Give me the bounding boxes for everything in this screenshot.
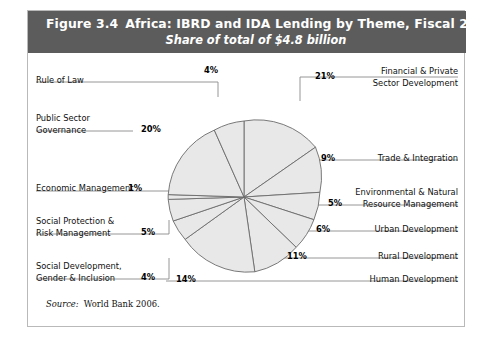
figure-number: Figure 3.4	[46, 16, 118, 31]
value-urban-development: 6%	[316, 224, 330, 234]
figure-title: Figure 3.4Africa: IBRD and IDA Lending b…	[46, 16, 458, 31]
value-social-protection-risk-management: 5%	[141, 227, 155, 237]
figure-container: Figure 3.4Africa: IBRD and IDA Lending b…	[27, 10, 465, 327]
value-trade-integration: 9%	[321, 153, 335, 163]
label-urban-development: Urban Development	[248, 224, 458, 236]
label-financial-private-sector-development: Financial & Private Sector Development	[248, 66, 458, 89]
value-human-development: 14%	[176, 274, 196, 284]
figure-header-bar: Figure 3.4Africa: IBRD and IDA Lending b…	[28, 11, 466, 53]
value-environmental-natural-resource-management: 5%	[328, 198, 342, 208]
label-social-protection-risk-management: Social Protection & Risk Management	[36, 216, 114, 239]
label-rule-of-law: Rule of Law	[36, 75, 84, 87]
label-rural-development: Rural Development	[248, 251, 458, 263]
source-note: Source:World Bank 2006.	[46, 299, 160, 309]
value-social-development-gender-inclusion: 4%	[141, 272, 155, 282]
source-label: Source:	[46, 299, 79, 309]
label-environmental-natural-resource-management: Environmental & Natural Resource Managem…	[248, 187, 458, 210]
label-public-sector-governance: Public Sector Governance	[36, 113, 90, 136]
value-financial-private-sector-development: 21%	[315, 71, 335, 81]
value-public-sector-governance: 20%	[141, 124, 161, 134]
label-social-development-gender-inclusion: Social Development, Gender & Inclusion	[36, 261, 122, 284]
figure-subtitle: Share of total of $4.8 billion	[28, 33, 466, 47]
label-human-development: Human Development	[248, 274, 458, 286]
value-economic-management: 1%	[128, 183, 142, 193]
label-trade-integration: Trade & Integration	[248, 153, 458, 165]
figure-title-text: Africa: IBRD and IDA Lending by Theme, F…	[125, 16, 489, 31]
label-economic-management: Economic Management	[36, 183, 133, 195]
value-rule-of-law: 4%	[204, 65, 218, 75]
pie-chart-plot-area: Rule of Law 4% Public Sector Governance …	[28, 53, 466, 327]
value-rural-development: 11%	[287, 251, 307, 261]
source-text: World Bank 2006.	[84, 299, 160, 309]
